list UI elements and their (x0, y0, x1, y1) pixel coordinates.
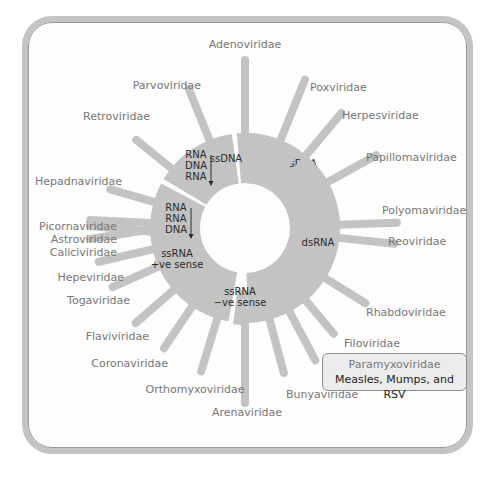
callout-subtitle: Measles, Mumps, and RSV (323, 372, 466, 402)
family-label-hepeviridae: Hepeviridae (58, 271, 125, 284)
family-label-herpesviridae: Herpesviridae (342, 109, 419, 122)
spoke-poxviridae (277, 80, 305, 150)
segment-label: ssRNA (161, 248, 193, 259)
segment-label: RNA (165, 202, 186, 213)
virus-family-diagram: dsDNAdsRNAssRNA−ve sensessRNA+ve senseRN… (0, 0, 497, 477)
family-label-papillomaviridae: Papillomaviridae (366, 151, 457, 164)
family-label-rhabdoviridae: Rhabdoviridae (366, 306, 446, 319)
family-label-parvoviridae: Parvoviridae (133, 79, 202, 92)
segment-label: DNA (165, 224, 187, 235)
segment-label: RNA (185, 171, 206, 182)
family-label-caliciviridae: Caliciviridae (50, 246, 118, 259)
segment-label: −ve sense (214, 297, 267, 308)
segment-label: +ve sense (151, 259, 204, 270)
family-label-poxviridae: Poxviridae (310, 81, 367, 94)
family-label-picornaviridae: Picornaviridae (39, 220, 117, 233)
spoke-polyomaviridae (330, 223, 397, 225)
segment-label: RNA (185, 149, 206, 160)
family-label-coronaviridae: Coronaviridae (91, 357, 168, 370)
segment-label: dsRNA (302, 237, 335, 248)
family-label-hepadnaviridae: Hepadnaviridae (35, 175, 122, 188)
family-label-flaviviridae: Flaviviridae (86, 330, 150, 343)
family-label-adenoviridae: Adenoviridae (209, 38, 282, 51)
family-label-polyomaviridae: Polyomaviridae (382, 204, 467, 217)
family-label-arenaviridae: Arenaviridae (212, 406, 282, 419)
family-label-filoviridae: Filoviridae (344, 337, 400, 350)
family-label-retroviridae: Retroviridae (83, 110, 150, 123)
paramyxoviridae-callout: Paramyxoviridae Measles, Mumps, and RSV (322, 353, 467, 391)
callout-title: Paramyxoviridae (323, 357, 466, 372)
family-label-reoviridae: Reoviridae (388, 235, 447, 248)
family-label-orthomyxoviridae: Orthomyxoviridae (146, 383, 245, 396)
segment-label: DNA (185, 160, 207, 171)
family-label-astroviridae: Astroviridae (51, 233, 117, 246)
family-label-togaviridae: Togaviridae (66, 294, 130, 307)
segment-label: ssRNA (224, 286, 256, 297)
segment-label: RNA (165, 213, 186, 224)
genome-type-ring: dsDNAdsRNAssRNA−ve sensessRNA+ve senseRN… (150, 133, 340, 325)
segment-label: ssDNA (210, 153, 243, 164)
